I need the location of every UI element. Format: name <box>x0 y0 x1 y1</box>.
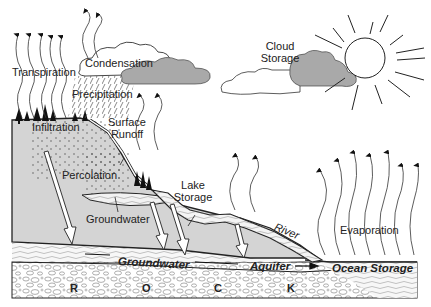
label-lake-storage: Lake Storage <box>170 179 216 203</box>
label-surface-runoff-line1: Surface <box>104 116 150 128</box>
label-rock-r: R <box>70 282 78 294</box>
water-cycle-diagram <box>0 0 431 307</box>
label-evaporation: Evaporation <box>340 224 399 236</box>
label-infiltration: Infiltration <box>32 121 80 133</box>
label-rock-o: O <box>142 282 151 294</box>
label-transpiration: Transpiration <box>12 66 76 78</box>
cloud-storage-white <box>221 68 300 94</box>
label-cloud-storage-line1: Cloud <box>256 40 304 52</box>
label-aquifer: Aquifer <box>250 260 290 272</box>
label-cloud-storage: Cloud Storage <box>256 40 304 64</box>
label-percolation: Percolation <box>62 169 117 181</box>
label-rock-c: C <box>214 282 222 294</box>
label-precipitation: Precipitation <box>72 88 133 100</box>
label-groundwater-upper: Groundwater <box>86 213 150 225</box>
label-surface-runoff-line2: Runoff <box>104 128 150 140</box>
label-ocean-storage: Ocean Storage <box>332 262 413 274</box>
label-cloud-storage-line2: Storage <box>256 52 304 64</box>
label-condensation: Condensation <box>85 57 153 69</box>
label-lake-storage-line2: Storage <box>170 191 216 203</box>
label-rock-k: K <box>287 282 295 294</box>
label-lake-storage-line1: Lake <box>170 179 216 191</box>
label-surface-runoff: Surface Runoff <box>104 116 150 140</box>
